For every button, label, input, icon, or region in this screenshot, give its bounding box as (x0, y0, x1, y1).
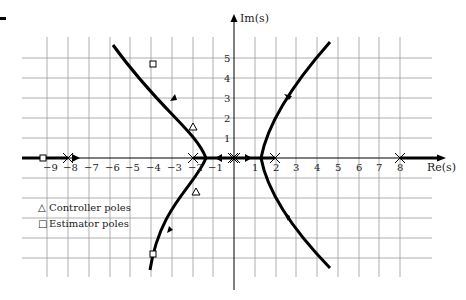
estimator-square-icon (150, 61, 156, 67)
root-locus-plot: −9 −8 −7 −6 −5 −4 −3 −2 −1 1 2 3 4 5 6 7… (0, 0, 466, 300)
estimator-square-icon (40, 155, 46, 161)
svg-text:−4: −4 (146, 162, 161, 173)
arrow-icon (245, 154, 252, 162)
svg-text:5: 5 (335, 162, 341, 173)
controller-triangle-icon (189, 123, 197, 130)
axes (22, 14, 446, 290)
svg-text:−8: −8 (63, 162, 78, 173)
svg-text:6: 6 (356, 162, 362, 173)
arrow-icon (72, 154, 80, 162)
svg-text:8: 8 (397, 162, 403, 173)
legend-controller-label: Controller poles (49, 202, 131, 213)
svg-text:−6: −6 (105, 162, 120, 173)
arrow-icon (215, 154, 222, 162)
y-axis-label: Im(s) (240, 12, 269, 25)
y-tick-labels: 5 4 3 2 1 (224, 53, 230, 144)
legend-controller-symbol: △ (38, 202, 46, 213)
corner-mark (0, 17, 6, 20)
svg-text:1: 1 (224, 133, 230, 144)
legend-estimator-label: Estimator poles (49, 218, 129, 229)
svg-text:−5: −5 (125, 162, 140, 173)
legend: △ Controller poles □ Estimator poles (38, 202, 131, 229)
svg-text:1: 1 (252, 162, 258, 173)
svg-text:−9: −9 (43, 162, 58, 173)
svg-text:−3: −3 (167, 162, 182, 173)
svg-text:7: 7 (376, 162, 382, 173)
svg-text:−7: −7 (84, 162, 99, 173)
x-axis-label: Re(s) (427, 161, 456, 174)
svg-text:−2: −2 (188, 162, 203, 173)
estimator-square-icon (150, 251, 156, 257)
svg-text:3: 3 (293, 162, 299, 173)
svg-text:4: 4 (224, 73, 230, 84)
x-tick-labels: −9 −8 −7 −6 −5 −4 −3 −2 −1 1 2 3 4 5 6 7… (43, 162, 403, 173)
imag-axis-arrow-icon (231, 14, 238, 22)
svg-text:2: 2 (224, 113, 230, 124)
svg-text:−1: −1 (208, 162, 223, 173)
svg-text:4: 4 (314, 162, 320, 173)
arrow-icon (170, 94, 177, 101)
legend-estimator-symbol: □ (38, 218, 47, 229)
svg-text:2: 2 (273, 162, 279, 173)
svg-text:3: 3 (224, 93, 230, 104)
svg-text:5: 5 (224, 53, 230, 64)
